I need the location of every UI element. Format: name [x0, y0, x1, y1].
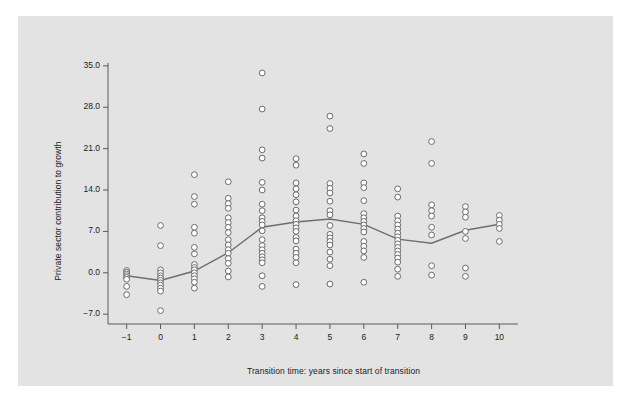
data-point	[259, 147, 265, 153]
data-point	[158, 288, 164, 294]
data-point	[259, 106, 265, 112]
data-point	[259, 155, 265, 161]
data-point	[259, 283, 265, 289]
data-point	[158, 308, 164, 314]
data-point	[293, 192, 299, 198]
data-point	[361, 248, 367, 254]
data-point	[259, 201, 265, 207]
data-point	[496, 239, 502, 245]
data-point	[259, 273, 265, 279]
data-point	[463, 236, 469, 242]
data-point	[327, 263, 333, 269]
data-point	[361, 255, 367, 261]
data-point	[395, 266, 401, 272]
data-point	[429, 161, 435, 167]
data-point	[463, 229, 469, 235]
mean-trend-line	[127, 219, 500, 280]
data-point	[429, 232, 435, 238]
data-point	[259, 228, 265, 234]
data-point	[192, 194, 198, 200]
data-point	[496, 226, 502, 232]
data-point	[293, 207, 299, 213]
data-point	[429, 202, 435, 208]
data-point	[327, 212, 333, 218]
data-point	[361, 161, 367, 167]
data-point	[259, 208, 265, 214]
data-point	[259, 70, 265, 76]
data-point	[259, 222, 265, 228]
data-point	[192, 224, 198, 230]
data-point	[192, 251, 198, 257]
data-point	[429, 139, 435, 145]
data-point	[361, 279, 367, 285]
data-point	[327, 249, 333, 255]
data-point	[327, 242, 333, 248]
data-point	[293, 156, 299, 162]
data-point	[124, 283, 130, 289]
data-point	[259, 179, 265, 185]
y-axis-title: Private sector contribution to growth	[53, 111, 63, 311]
data-point	[361, 229, 367, 235]
y-tick-label: 28.0	[52, 101, 100, 111]
data-point	[429, 263, 435, 269]
data-point	[293, 238, 299, 244]
data-point	[361, 185, 367, 191]
data-point	[225, 205, 231, 211]
data-point	[293, 282, 299, 288]
data-point	[293, 199, 299, 205]
figure-canvas: −7.00.07.014.021.028.035.0−1012345678910…	[0, 0, 631, 402]
trend-line-group	[127, 219, 500, 280]
data-point	[158, 223, 164, 229]
data-point	[327, 223, 333, 229]
data-point	[192, 230, 198, 236]
data-point	[395, 259, 401, 265]
data-point	[293, 162, 299, 168]
data-point	[225, 274, 231, 280]
data-point	[395, 186, 401, 192]
data-point	[192, 279, 198, 285]
data-point	[395, 273, 401, 279]
data-point	[259, 187, 265, 193]
y-tick-label: 35.0	[52, 60, 100, 70]
data-point	[259, 260, 265, 266]
data-point	[124, 276, 130, 282]
data-points-group	[124, 70, 503, 313]
data-point	[327, 113, 333, 119]
data-point	[327, 190, 333, 196]
data-point	[225, 268, 231, 274]
data-point	[327, 281, 333, 287]
scatter-plot	[18, 16, 613, 386]
data-point	[327, 198, 333, 204]
data-point	[225, 260, 231, 266]
data-point	[259, 237, 265, 243]
x-axis-title: Transition time: years since start of tr…	[18, 366, 631, 376]
data-point	[361, 151, 367, 157]
axes-group	[103, 63, 518, 329]
data-point	[192, 244, 198, 250]
data-point	[429, 224, 435, 230]
data-point	[463, 273, 469, 279]
data-point	[225, 230, 231, 236]
data-point	[293, 186, 299, 192]
data-point	[327, 256, 333, 262]
data-point	[327, 126, 333, 132]
data-point	[361, 198, 367, 204]
data-point	[192, 172, 198, 178]
data-point	[293, 229, 299, 235]
data-point	[158, 243, 164, 249]
data-point	[293, 260, 299, 266]
data-point	[225, 179, 231, 185]
data-point	[395, 194, 401, 200]
data-point	[192, 201, 198, 207]
data-point	[429, 213, 435, 219]
data-point	[124, 292, 130, 298]
x-tick-label: 10	[479, 332, 519, 342]
data-point	[192, 285, 198, 291]
chart-panel: −7.00.07.014.021.028.035.0−1012345678910…	[18, 16, 613, 386]
data-point	[293, 180, 299, 186]
data-point	[463, 265, 469, 271]
data-point	[463, 214, 469, 220]
data-point	[429, 272, 435, 278]
